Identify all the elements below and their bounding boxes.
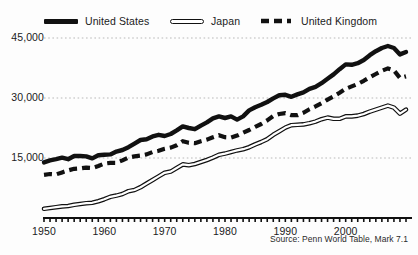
series-line-united-states xyxy=(44,46,406,162)
x-axis-tick-label: 1960 xyxy=(80,225,128,237)
source-note: Source: Penn World Table, Mark 7.1 xyxy=(270,234,408,244)
chart-plot-area xyxy=(0,0,418,255)
chart-canvas xyxy=(0,0,418,255)
x-axis-tick-label: 1970 xyxy=(141,225,189,237)
x-axis-tick-label: 1980 xyxy=(201,225,249,237)
y-axis-tick-label: 15,000 xyxy=(0,151,44,163)
chart-figure: United States Japan United Kingdom 45,00… xyxy=(0,0,418,255)
y-axis-tick-label: 45,000 xyxy=(0,31,44,43)
y-axis-tick-label: 30,000 xyxy=(0,91,44,103)
series-line-united-kingdom xyxy=(44,68,406,174)
x-axis-tick-label: 1950 xyxy=(20,225,68,237)
